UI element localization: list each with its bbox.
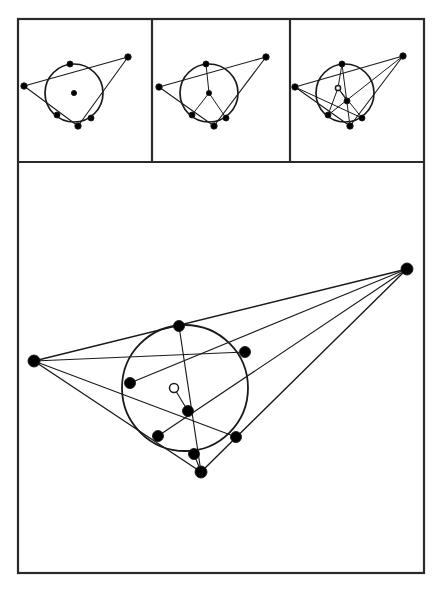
panel-1-incenter xyxy=(71,90,76,95)
panel-1-triangle-side-3 xyxy=(24,86,78,126)
main-segment-triangle-side-1 xyxy=(34,269,407,361)
panel-3-vertex-1 xyxy=(292,84,298,90)
panel-2-tangent-point-3 xyxy=(189,112,195,118)
panel-3-vertex-3 xyxy=(347,123,353,129)
panel-1-tangent-point-2 xyxy=(88,115,94,121)
main-point-I xyxy=(170,384,179,393)
main-point-P_AD xyxy=(125,378,136,389)
panel-2-vertex-1 xyxy=(156,84,162,90)
gergonne-point-figure xyxy=(0,0,439,593)
panel-2-tangent-point-1 xyxy=(203,61,209,67)
panel-1-tangent-point-1 xyxy=(67,61,73,67)
panel-1-vertex-2 xyxy=(125,54,131,60)
panel-2-triangle-side-3 xyxy=(159,87,214,126)
panel-3-cevians xyxy=(292,53,406,129)
main-point-P_low xyxy=(189,449,200,460)
panel-3-vertex-2 xyxy=(400,53,406,59)
main-point-T_AB xyxy=(174,321,185,332)
main-point-A xyxy=(28,355,40,367)
panel-3-tangent-point-2 xyxy=(359,115,365,121)
panel-1-tangent-point-3 xyxy=(54,112,60,118)
main-segment-cevian-5 xyxy=(158,269,407,436)
panel-3-incenter xyxy=(335,85,340,90)
main-segment-triangle-side-3 xyxy=(34,361,201,472)
main-gergonne-diagram xyxy=(28,263,413,478)
panel-2-incenter xyxy=(206,90,211,95)
panel-3-triangle-side-1 xyxy=(295,56,403,87)
panel-3-radius-1 xyxy=(338,64,342,88)
panel-2-vertex-3 xyxy=(211,123,217,129)
panel-1-incircle xyxy=(21,54,131,129)
panel-1-vertex-1 xyxy=(21,83,27,89)
panel-2-vertex-2 xyxy=(263,54,269,60)
main-point-T_CA xyxy=(153,431,164,442)
main-segment-triangle-side-2 xyxy=(201,269,407,472)
panel-3-gergonne-point xyxy=(344,98,350,104)
main-point-C xyxy=(195,466,207,478)
main-point-B xyxy=(401,263,413,275)
panel-3-tangent-point-1 xyxy=(339,61,345,67)
main-point-P_BE xyxy=(240,347,251,358)
panel-2-radii xyxy=(156,54,269,129)
main-point-T_BC xyxy=(231,432,242,443)
panel-1-vertex-3 xyxy=(75,123,81,129)
panel-2-radius-2 xyxy=(209,93,226,118)
frame-group xyxy=(18,19,424,573)
figure-root xyxy=(0,0,439,593)
panel-1-triangle-side-1 xyxy=(24,57,128,86)
main-point-Ge xyxy=(183,406,194,417)
panel-2-triangle-side-1 xyxy=(159,57,266,87)
panel-2-radius-1 xyxy=(206,64,209,93)
panel-3-tangent-point-3 xyxy=(325,112,331,118)
panel-2-radius-3 xyxy=(192,93,209,115)
outer-frame xyxy=(18,19,424,573)
panel-2-tangent-point-2 xyxy=(223,115,229,121)
